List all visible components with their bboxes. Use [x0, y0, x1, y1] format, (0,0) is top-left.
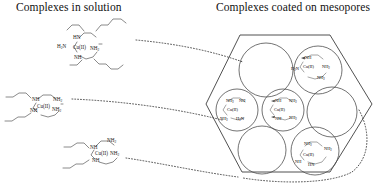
label-cu-center-top: Cu(II) — [73, 44, 86, 51]
pore-bottom-left — [238, 126, 286, 174]
label-nh2-mc-1: NH2 — [289, 98, 297, 104]
label-nh2-ml-2: NH2 — [220, 116, 228, 122]
label-nh-bot-2: NH — [92, 157, 100, 163]
pore-complex-mid-center: NH NH2 Cu(II) NH NH2 — [270, 98, 297, 121]
label-nh-mc-2: NH — [275, 116, 282, 121]
label-cu-ml: Cu(II) — [227, 107, 239, 112]
label-nh2-tr-1: NH2 — [322, 64, 330, 70]
label-nh-br: NH — [295, 159, 302, 164]
solution-complex-middle: NH NH2 Cu(II) NH NH2 — [5, 93, 63, 121]
label-nh-mid-1: NH — [32, 96, 40, 102]
connector-top-dotted — [136, 40, 243, 62]
label-cu-center-bot: Cu(II) — [95, 150, 108, 157]
mesopore-complex-diagram: Complexes in solution Complexes coated o… — [0, 0, 385, 188]
label-h2n-tr: H2N — [291, 66, 300, 72]
label-cu-center-mid: Cu(II) — [37, 103, 50, 110]
label-cu-mc: Cu(II) — [274, 107, 286, 112]
label-nh2-ml-1: NH2 — [226, 98, 234, 104]
connector-bottom-dotted — [126, 158, 238, 177]
label-hn-top: HN — [73, 34, 81, 40]
label-nh2-br-2: NH2 — [324, 146, 332, 152]
pore-mid-right — [307, 87, 357, 137]
label-nh2-mid-1: NH2 — [53, 96, 63, 103]
label-nh2-mc-2: NH2 — [289, 115, 297, 121]
label-hn-br: HN — [308, 162, 315, 167]
label-nh-top: NH — [74, 54, 82, 60]
label-nh-ml-1: NH — [239, 98, 246, 103]
label-cu-tr: Cu(II) — [303, 64, 315, 69]
pore-complex-bottom-right: NH2 NH2 Cu(II) NH HN — [295, 141, 332, 167]
label-nh2-mid-2: NH2 — [52, 106, 62, 113]
label-nh-tr-1: NH — [305, 55, 312, 60]
label-h2n-top: H2N — [57, 43, 67, 50]
solution-complex-bottom: NH NH2 Cu(II) NH2 NH — [63, 137, 120, 168]
label-nh2-bot-2: NH2 — [110, 150, 120, 157]
label-h2n-ml: H2N — [236, 116, 245, 122]
label-nh-mid-2: NH — [30, 107, 38, 113]
connector-middle-dotted — [72, 99, 222, 120]
label-nh2-top: NH2 — [90, 45, 100, 52]
label-nh2-tr-2: NH2 — [317, 75, 325, 81]
label-nh-mc-1: NH — [275, 98, 282, 103]
label-cu-br: Cu(II) — [303, 152, 315, 157]
solution-complex-top: HN H2N Cu(II) NH2 NH — [57, 19, 126, 69]
pore-complex-mid-left: NH2 NH Cu(II) NH2 H2N — [220, 98, 246, 122]
diagram-canvas: HN H2N Cu(II) NH2 NH NH NH2 Cu(II) NH NH… — [0, 0, 385, 188]
